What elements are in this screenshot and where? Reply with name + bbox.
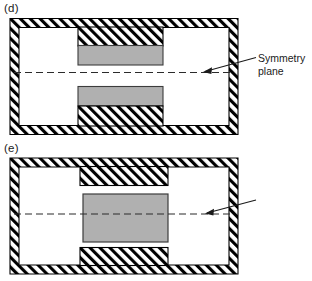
- symmetry-plane-callout-d: Symmetry plane: [258, 52, 305, 77]
- callout-arrowhead-d: [203, 67, 212, 74]
- bottom-gray-block-d: [78, 87, 163, 107]
- symmetry-plane-callout-d-line1: Symmetry: [258, 52, 305, 64]
- top-hatched-pedestal-e: [80, 167, 168, 186]
- callout-arrowhead-e: [205, 209, 214, 216]
- panel-d: (d) Symmetry plane: [0, 0, 312, 140]
- top-gray-block-d: [78, 46, 163, 66]
- bottom-hatched-pedestal-e: [80, 248, 168, 266]
- panel-e-drawing: [0, 140, 312, 281]
- symmetry-plane-callout-d-line2: plane: [258, 65, 305, 78]
- top-hatched-pedestal-d: [78, 27, 163, 46]
- bottom-hatched-pedestal-d: [78, 106, 163, 126]
- center-gray-block-e: [83, 194, 168, 242]
- panel-e: (e) Symmetry plane: [0, 140, 312, 281]
